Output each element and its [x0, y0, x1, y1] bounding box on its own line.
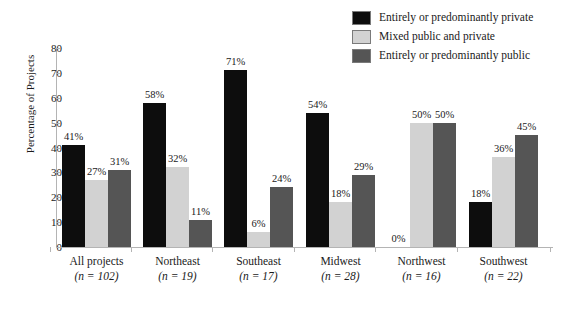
- bar[interactable]: [270, 187, 293, 247]
- bar-slot: 29%: [352, 48, 375, 247]
- bar-value-label: 24%: [272, 173, 291, 184]
- bar[interactable]: [62, 145, 85, 247]
- bar[interactable]: [515, 135, 538, 247]
- bar-value-label: 36%: [494, 143, 513, 154]
- y-axis-tick-mark: [56, 197, 60, 198]
- legend-item-label: Mixed public and private: [379, 30, 495, 43]
- bar-slot: 36%: [492, 48, 515, 247]
- bar-value-label: 71%: [226, 56, 245, 67]
- bar-slot: 0%: [387, 48, 410, 247]
- bar[interactable]: [85, 180, 108, 247]
- x-axis-tick-mark: [375, 247, 376, 252]
- bar-slot: 6%: [247, 48, 270, 247]
- legend-item[interactable]: Mixed public and private: [352, 27, 562, 46]
- bar-slot: 58%: [143, 48, 166, 247]
- bar-value-label: 11%: [191, 206, 210, 217]
- x-axis-tick-mark: [550, 247, 551, 252]
- bar[interactable]: [247, 232, 270, 247]
- y-axis-tick-mark: [56, 172, 60, 173]
- bar-chart: Entirely or predominantly privateMixed p…: [0, 0, 565, 309]
- bar[interactable]: [143, 103, 166, 247]
- bar-value-label: 32%: [168, 153, 187, 164]
- bar-value-label: 6%: [252, 218, 266, 229]
- legend-item-label: Entirely or predominantly private: [379, 11, 533, 24]
- legend-swatch-icon: [352, 11, 371, 25]
- bar-slot: 45%: [515, 48, 538, 247]
- bar-value-label: 29%: [354, 161, 373, 172]
- y-axis-tick-mark: [56, 73, 60, 74]
- bar-value-label: 27%: [87, 166, 106, 177]
- x-axis-group-name: Southwest: [480, 255, 528, 267]
- bar[interactable]: [352, 175, 375, 247]
- bar-slot: 27%: [85, 48, 108, 247]
- bar-slot: 50%: [410, 48, 433, 247]
- bar-slot: 18%: [329, 48, 352, 247]
- bar-slot: 24%: [270, 48, 293, 247]
- bar-slot: 41%: [62, 48, 85, 247]
- x-axis-group-name: Northeast: [155, 255, 200, 267]
- bar[interactable]: [108, 170, 131, 247]
- bar-value-label: 18%: [471, 188, 490, 199]
- bar[interactable]: [189, 220, 212, 247]
- bar[interactable]: [224, 70, 247, 247]
- bar[interactable]: [492, 157, 515, 247]
- y-axis-tick-mark: [56, 148, 60, 149]
- x-axis-group-name: Southeast: [236, 255, 281, 267]
- legend-swatch-icon: [352, 30, 371, 44]
- bar-value-label: 45%: [517, 121, 536, 132]
- bar[interactable]: [329, 202, 352, 247]
- bar[interactable]: [410, 123, 433, 247]
- x-axis-tick-mark: [131, 247, 132, 252]
- bar-value-label: 18%: [331, 188, 350, 199]
- bar-value-label: 41%: [64, 131, 83, 142]
- bar-value-label: 58%: [145, 89, 164, 100]
- bar-value-label: 0%: [392, 233, 406, 244]
- bar[interactable]: [469, 202, 492, 247]
- bar-slot: 31%: [108, 48, 131, 247]
- x-axis-group-sample-size: (n = 22): [449, 269, 558, 284]
- x-axis-group-name: All projects: [70, 255, 124, 267]
- bar-slot: 11%: [189, 48, 212, 247]
- bar[interactable]: [433, 123, 456, 247]
- bar-value-label: 31%: [110, 156, 129, 167]
- bar-slot: 54%: [306, 48, 329, 247]
- x-axis-tick-mark: [50, 247, 51, 252]
- bar-slot: 32%: [166, 48, 189, 247]
- x-axis-group-name: Midwest: [320, 255, 360, 267]
- bar-slot: 71%: [224, 48, 247, 247]
- bar-value-label: 50%: [412, 109, 431, 120]
- y-axis-tick-mark: [56, 98, 60, 99]
- bar-value-label: 54%: [308, 99, 327, 110]
- x-axis-group-label: Southwest(n = 22): [449, 254, 558, 284]
- bar-value-label: 50%: [435, 109, 454, 120]
- bar-slot: 50%: [433, 48, 456, 247]
- bar[interactable]: [166, 167, 189, 247]
- y-axis-tick-mark: [56, 48, 60, 49]
- bar[interactable]: [306, 113, 329, 247]
- legend-item[interactable]: Entirely or predominantly private: [352, 8, 562, 27]
- bar-slot: 18%: [469, 48, 492, 247]
- y-axis-tick-mark: [56, 123, 60, 124]
- x-axis-tick-mark: [294, 247, 295, 252]
- x-axis-tick-mark: [457, 247, 458, 252]
- y-axis-tick-mark: [56, 222, 60, 223]
- x-axis-tick-mark: [212, 247, 213, 252]
- x-axis-group-name: Northwest: [398, 255, 446, 267]
